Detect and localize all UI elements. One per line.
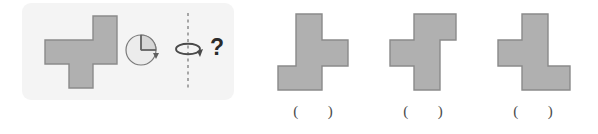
mental-rotation-item: ? ( ) ( ) <box>0 0 598 134</box>
option-a-shape[interactable] <box>274 12 352 92</box>
option-a-path <box>278 14 348 90</box>
option-a-svg <box>274 12 352 92</box>
option-b-path <box>390 14 456 90</box>
option-c-shape[interactable] <box>494 12 572 92</box>
option-c-svg <box>494 12 572 92</box>
pie-quarter-sector <box>141 35 156 50</box>
stimulus-path <box>45 16 117 88</box>
question-mark: ? <box>210 36 224 59</box>
vertical-flip-axis-icon <box>167 11 209 91</box>
option-a-blank[interactable]: ( ) <box>258 103 368 120</box>
option-c-blank[interactable]: ( ) <box>478 103 588 120</box>
stimulus-svg <box>45 16 117 88</box>
option-b[interactable]: ( ) <box>368 0 478 134</box>
quarter-turn-pie-icon <box>122 29 164 71</box>
option-a[interactable]: ( ) <box>258 0 368 134</box>
option-b-blank[interactable]: ( ) <box>368 103 478 120</box>
option-c-path <box>498 14 570 90</box>
question-stimulus-shape <box>45 16 117 88</box>
option-b-svg <box>384 12 462 92</box>
option-b-shape[interactable] <box>384 12 462 92</box>
question-panel: ? <box>22 3 234 100</box>
option-c[interactable]: ( ) <box>478 0 588 134</box>
options-row: ( ) ( ) ( ) <box>258 0 598 134</box>
axis-icon-svg <box>167 11 209 91</box>
pie-icon-svg <box>122 29 164 71</box>
